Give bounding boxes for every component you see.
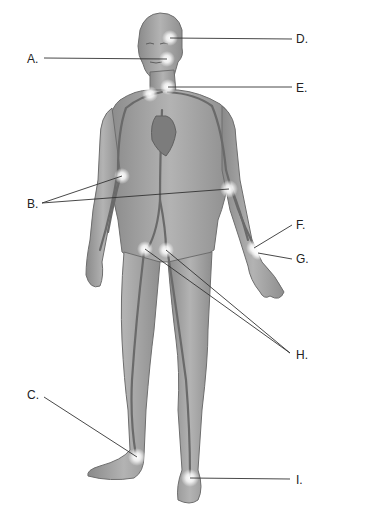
leader-h1 xyxy=(145,249,290,353)
leader-d xyxy=(170,38,292,39)
label-e: E. xyxy=(296,82,307,94)
arm-right xyxy=(222,106,284,298)
pulse-glow-e2 xyxy=(142,86,158,102)
label-c: C. xyxy=(27,389,39,401)
label-f: F. xyxy=(296,219,305,231)
label-g: G. xyxy=(296,253,309,265)
label-d: D. xyxy=(296,33,308,45)
head xyxy=(138,13,183,81)
body-diagram xyxy=(0,0,378,529)
leader-c xyxy=(44,397,137,457)
leader-i xyxy=(190,478,290,479)
label-b: B. xyxy=(27,198,38,210)
label-i: I. xyxy=(296,474,303,486)
leader-f xyxy=(254,225,292,248)
label-h: H. xyxy=(296,349,308,361)
label-a: A. xyxy=(27,53,38,65)
